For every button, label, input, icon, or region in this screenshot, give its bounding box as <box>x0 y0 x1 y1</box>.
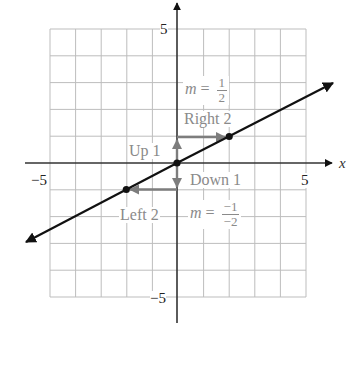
coordinate-plane-diagram: 5 −5 −5 5 x Up 1 Right 2 Down 1 Left 2 m… <box>0 0 360 377</box>
point-origin <box>173 159 180 166</box>
right-label: Right 2 <box>183 111 233 127</box>
x-tick-neg5: −5 <box>31 173 47 188</box>
down-label: Down 1 <box>189 172 242 188</box>
point-2-1 <box>226 133 233 140</box>
x-tick-5: 5 <box>301 173 309 188</box>
slope-label-upper: m = 1 2 <box>183 76 229 105</box>
y-tick-5: 5 <box>160 22 168 37</box>
point-neg2-neg1 <box>123 186 130 193</box>
slope-fraction-upper: 1 2 <box>217 77 228 104</box>
slope-fraction-lower: −1 −2 <box>222 201 240 228</box>
up-label: Up 1 <box>128 143 162 159</box>
graph-canvas <box>0 0 360 377</box>
slope-label-lower: m = −1 −2 <box>188 200 241 229</box>
left-label: Left 2 <box>119 207 160 223</box>
y-tick-neg5: −5 <box>150 291 166 306</box>
x-axis-label: x <box>339 155 346 172</box>
